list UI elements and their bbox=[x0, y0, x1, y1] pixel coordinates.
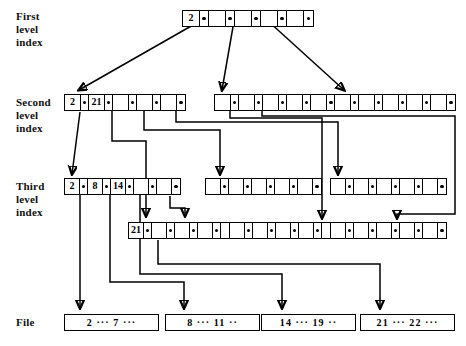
index-node-l3n4: 21 bbox=[128, 222, 245, 239]
index-pointer-cell bbox=[255, 95, 263, 110]
index-pointer-cell bbox=[392, 223, 400, 238]
link-l2n1-to-l3n4 bbox=[112, 111, 146, 216]
index-pointer-cell bbox=[392, 179, 400, 194]
index-empty-cell bbox=[431, 95, 447, 110]
index-empty-cell bbox=[229, 179, 244, 194]
index-pointer-cell bbox=[221, 179, 229, 194]
index-pointer-cell bbox=[278, 11, 287, 26]
link-l2n1-to-l3n1 bbox=[72, 112, 80, 174]
index-pointer-cell bbox=[144, 223, 152, 238]
index-key-cell: 21 bbox=[89, 95, 105, 110]
link-l1-to-l2n2 bbox=[222, 21, 234, 90]
index-empty-cell bbox=[383, 95, 399, 110]
link-l1-to-l2n1 bbox=[79, 21, 200, 90]
index-pointer-cell bbox=[190, 223, 198, 238]
index-pointer-cell bbox=[290, 179, 298, 194]
index-empty-cell bbox=[209, 11, 226, 26]
index-empty-cell bbox=[252, 179, 267, 194]
index-pointer-cell bbox=[314, 223, 322, 238]
link-l3n4-to-f4 bbox=[158, 240, 380, 308]
connector-lines bbox=[0, 0, 466, 346]
index-pointer-cell bbox=[313, 179, 321, 194]
index-empty-cell bbox=[400, 223, 415, 238]
index-pointer-cell bbox=[438, 223, 446, 238]
index-pointer-cell bbox=[415, 179, 423, 194]
index-pointer-cell bbox=[447, 95, 455, 110]
index-pointer-cell bbox=[399, 95, 407, 110]
index-node-l3n2 bbox=[205, 178, 322, 195]
index-empty-cell bbox=[215, 95, 231, 110]
index-empty-cell bbox=[423, 179, 438, 194]
index-pointer-cell bbox=[80, 179, 88, 194]
link-l2n1-to-l3n3 bbox=[176, 111, 338, 174]
index-pointer-cell bbox=[346, 223, 354, 238]
index-pointer-cell bbox=[369, 179, 377, 194]
link-l2n2-to-l3n5 bbox=[230, 111, 322, 218]
index-pointer-cell bbox=[346, 179, 354, 194]
index-empty-cell bbox=[354, 223, 369, 238]
index-pointer-cell bbox=[177, 95, 185, 110]
index-pointer-cell bbox=[126, 179, 134, 194]
index-pointer-cell bbox=[375, 95, 383, 110]
index-pointer-cell bbox=[172, 179, 180, 194]
index-pointer-cell bbox=[81, 95, 89, 110]
index-pointer-cell bbox=[129, 95, 137, 110]
label-third-level-index: Third level index bbox=[16, 180, 45, 219]
index-pointer-cell bbox=[200, 11, 209, 26]
index-pointer-cell bbox=[149, 179, 157, 194]
index-node-l3n6 bbox=[330, 222, 447, 239]
index-empty-cell bbox=[423, 223, 438, 238]
index-empty-cell bbox=[331, 223, 346, 238]
index-empty-cell bbox=[175, 223, 190, 238]
index-empty-cell bbox=[298, 179, 313, 194]
index-empty-cell bbox=[230, 223, 245, 238]
index-empty-cell bbox=[235, 11, 252, 26]
file-block-f1: 2 ··· 7 ··· bbox=[64, 314, 159, 331]
file-block-f3: 14 ··· 19 ·· bbox=[261, 314, 356, 331]
index-pointer-cell bbox=[245, 223, 253, 238]
index-node-l2n2 bbox=[214, 94, 336, 111]
index-empty-cell bbox=[407, 95, 423, 110]
index-empty-cell bbox=[275, 179, 290, 194]
index-pointer-cell bbox=[369, 223, 377, 238]
index-pointer-cell bbox=[291, 223, 299, 238]
index-empty-cell bbox=[253, 223, 268, 238]
index-key-cell: 8 bbox=[88, 179, 103, 194]
link-l3n1-to-l3n4 bbox=[170, 196, 185, 216]
index-node-l3n1: 2814 bbox=[64, 178, 181, 195]
index-key-cell: 2 bbox=[65, 95, 81, 110]
index-pointer-cell bbox=[167, 223, 175, 238]
index-pointer-cell bbox=[244, 179, 252, 194]
label-first-level-index: First level index bbox=[16, 10, 43, 49]
link-l3n1-to-f3 bbox=[140, 195, 282, 308]
index-pointer-cell bbox=[226, 11, 235, 26]
index-empty-cell bbox=[261, 11, 278, 26]
index-empty-cell bbox=[198, 223, 213, 238]
index-empty-cell bbox=[335, 95, 351, 110]
index-pointer-cell bbox=[153, 95, 161, 110]
index-empty-cell bbox=[311, 95, 327, 110]
index-pointer-cell bbox=[231, 95, 239, 110]
link-l3n1-to-f2 bbox=[110, 195, 184, 308]
index-empty-cell bbox=[287, 11, 304, 26]
index-pointer-cell bbox=[423, 95, 431, 110]
index-pointer-cell bbox=[213, 223, 221, 238]
index-empty-cell bbox=[134, 179, 149, 194]
index-node-l2n1: 221 bbox=[64, 94, 186, 111]
index-empty-cell bbox=[157, 179, 172, 194]
index-node-l3n3 bbox=[330, 178, 447, 195]
index-empty-cell bbox=[377, 179, 392, 194]
index-pointer-cell bbox=[103, 179, 111, 194]
index-pointer-cell bbox=[267, 179, 275, 194]
index-pointer-cell bbox=[415, 223, 423, 238]
index-key-cell: 14 bbox=[111, 179, 126, 194]
index-pointer-cell bbox=[279, 95, 287, 110]
index-empty-cell bbox=[400, 179, 415, 194]
index-empty-cell bbox=[377, 223, 392, 238]
index-empty-cell bbox=[299, 223, 314, 238]
index-empty-cell bbox=[239, 95, 255, 110]
file-block-f2: 8 ··· 11 ·· bbox=[165, 314, 260, 331]
index-pointer-cell bbox=[438, 179, 446, 194]
index-key-cell: 2 bbox=[183, 11, 200, 26]
index-pointer-cell bbox=[304, 11, 313, 26]
